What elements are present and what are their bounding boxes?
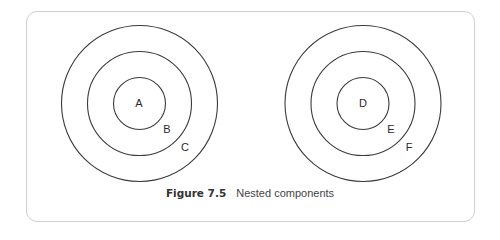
label-a: A (135, 97, 143, 109)
right-nested-group: D E F (285, 26, 441, 182)
figure-number: Figure 7.5 (166, 187, 226, 199)
figure-caption: Figure 7.5Nested components (0, 187, 500, 199)
label-b: B (163, 123, 170, 135)
label-d: D (359, 97, 367, 109)
label-c: C (181, 141, 189, 153)
left-nested-group: A B C (62, 26, 218, 182)
figure-title: Nested components (236, 187, 334, 199)
label-f: F (406, 141, 413, 153)
label-e: E (387, 123, 394, 135)
